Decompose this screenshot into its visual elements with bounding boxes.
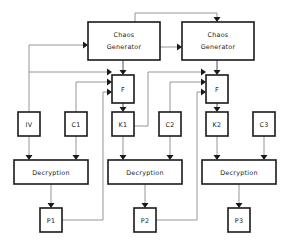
chaos-generator-1-label-line1: Chaos: [114, 31, 135, 39]
node-decryption-3[interactable]: Decryption: [202, 160, 276, 184]
p2-label: P2: [141, 217, 149, 225]
node-p1[interactable]: P1: [40, 208, 62, 232]
node-p2[interactable]: P2: [134, 208, 156, 232]
node-chaos-generator-1[interactable]: Chaos Generator: [88, 22, 160, 60]
wire-p1-to-f1: [62, 92, 107, 220]
wire-c1-to-f1: [76, 82, 107, 112]
diagram-canvas: Chaos Generator Chaos Generator F F IV C…: [0, 0, 291, 247]
decryption-2-label: Decryption: [126, 169, 164, 177]
k1-label: K1: [119, 121, 128, 129]
chaos-generator-2-box[interactable]: [182, 22, 254, 60]
iv-label: IV: [26, 121, 33, 129]
c2-label: C2: [165, 121, 174, 129]
wire-p2-to-f2: [156, 92, 201, 220]
node-decryption-2[interactable]: Decryption: [108, 160, 182, 184]
node-k1[interactable]: K1: [112, 112, 134, 136]
decryption-3-label: Decryption: [220, 169, 258, 177]
c1-label: C1: [71, 121, 80, 129]
decryption-1-label: Decryption: [32, 169, 70, 177]
wire-iv-to-chaos1: [29, 45, 83, 112]
node-c3[interactable]: C3: [253, 112, 275, 136]
block-diagram: Chaos Generator Chaos Generator F F IV C…: [0, 0, 291, 247]
wire-c2-to-f2: [170, 82, 201, 112]
p1-label: P1: [47, 217, 55, 225]
node-chaos-generator-2[interactable]: Chaos Generator: [182, 22, 254, 60]
f-2-label: F: [215, 86, 219, 94]
c3-label: C3: [259, 121, 268, 129]
node-c2[interactable]: C2: [159, 112, 181, 136]
node-k2[interactable]: K2: [206, 112, 228, 136]
chaos-generator-2-label-line2: Generator: [201, 43, 236, 51]
chaos-generator-1-label-line2: Generator: [107, 43, 142, 51]
chaos-generator-2-label-line1: Chaos: [208, 31, 229, 39]
k2-label: K2: [213, 121, 222, 129]
node-p3[interactable]: P3: [228, 208, 250, 232]
node-decryption-1[interactable]: Decryption: [14, 160, 88, 184]
chaos-generator-1-box[interactable]: [88, 22, 160, 60]
node-c1[interactable]: C1: [65, 112, 87, 136]
p3-label: P3: [235, 217, 243, 225]
node-f-1[interactable]: F: [112, 75, 134, 103]
f-1-label: F: [121, 86, 125, 94]
node-iv[interactable]: IV: [18, 112, 40, 136]
node-f-2[interactable]: F: [206, 75, 228, 103]
